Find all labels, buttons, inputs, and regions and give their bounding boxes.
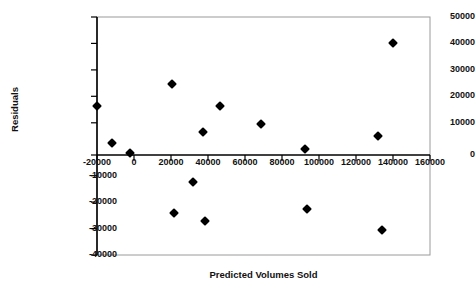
data-point — [256, 119, 266, 129]
data-point — [300, 144, 310, 154]
y-tick-label-neg10000: -10000 — [89, 171, 185, 180]
data-point — [200, 216, 210, 226]
data-point — [107, 138, 117, 148]
data-point — [302, 204, 312, 214]
x-tick-label-160000: 160000 — [397, 158, 463, 167]
y-tick-label-10000: 10000 — [383, 118, 475, 127]
data-point — [198, 127, 208, 137]
data-point — [92, 101, 102, 111]
y-tick-label-neg20000: -20000 — [89, 197, 185, 206]
y-tick-label-neg30000: -30000 — [89, 224, 185, 233]
y-tick-label-neg40000: -40000 — [89, 250, 185, 259]
x-axis-title: Predicted Volumes Sold — [97, 269, 430, 280]
data-point — [373, 131, 383, 141]
y-tick-label-30000: 30000 — [383, 65, 475, 74]
x-tick-label-neg20000: -20000 — [67, 158, 127, 167]
y-axis-title: Residuals — [9, 70, 20, 150]
data-point — [169, 208, 179, 218]
y-tick-label-50000: 50000 — [383, 12, 475, 21]
residual-scatter-chart: Residuals Predicted Volumes Sold 50000 4… — [0, 0, 475, 302]
data-point — [167, 79, 177, 89]
data-point — [377, 225, 387, 235]
y-tick-label-20000: 20000 — [383, 91, 475, 100]
data-point — [188, 177, 198, 187]
data-point — [215, 101, 225, 111]
